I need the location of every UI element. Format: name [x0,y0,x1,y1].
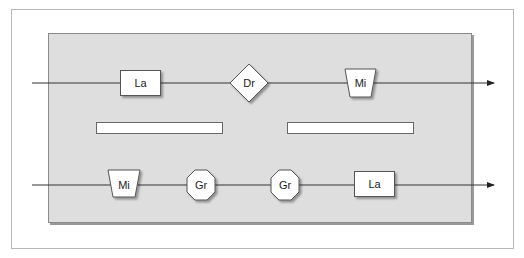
node-label: Gr [279,179,292,191]
node-label: Dr [243,77,255,89]
node-label: La [134,77,147,89]
top-node-mi[interactable]: Mi [345,69,376,97]
node-label: Mi [355,77,367,89]
bottom-node-gr-1[interactable]: Gr [187,170,215,200]
bar-right [288,123,414,134]
node-label: Gr [195,179,208,191]
node-label: Mi [118,179,130,191]
bottom-node-la[interactable]: La [355,172,395,197]
node-label: La [368,178,381,190]
bottom-node-mi[interactable]: Mi [108,170,140,197]
bar-left [97,123,223,134]
diagram-canvas: La Dr Mi Mi Gr Gr La [0,0,524,258]
top-node-la[interactable]: La [121,71,161,96]
bottom-node-gr-2[interactable]: Gr [271,170,299,200]
